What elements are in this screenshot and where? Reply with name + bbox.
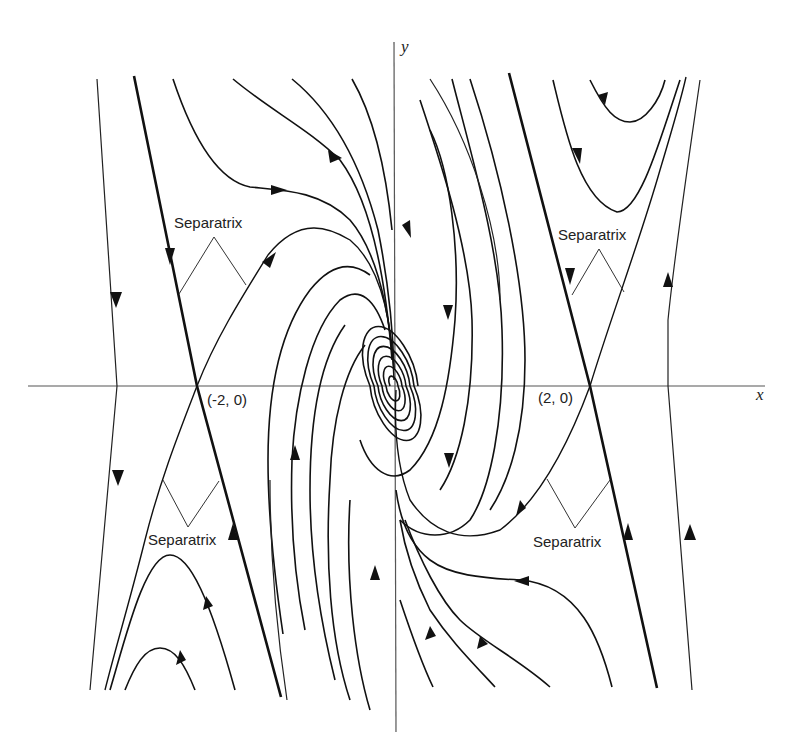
separatrix-left-up [197,228,394,386]
axes: x y [28,37,765,732]
trajectory-arrows [110,92,696,665]
lower-right-trajectories [396,490,612,687]
separatrix-right-heavy [509,73,657,688]
equilibrium-label-right: (2, 0) [538,389,573,406]
upper-right-trajectories [553,80,700,690]
y-axis-label: y [399,37,409,56]
phase-portrait: x y [0,0,792,750]
separatrix-label-upper-right: Separatrix [558,226,627,243]
separatrix-label-lower-left: Separatrix [148,531,217,548]
upper-left-trajectories [90,79,394,690]
spiral-trajectories [268,79,525,710]
y-axis [394,42,396,732]
lower-left-trajectories [110,555,235,690]
separatrix-label-lower-right: Separatrix [533,533,602,550]
labels: Separatrix Separatrix Separatrix Separat… [148,214,627,550]
equilibrium-label-left: (-2, 0) [207,391,247,408]
separatrix-label-upper-left: Separatrix [174,214,243,231]
separatrix-brackets [163,237,624,528]
x-axis-label: x [755,385,764,404]
